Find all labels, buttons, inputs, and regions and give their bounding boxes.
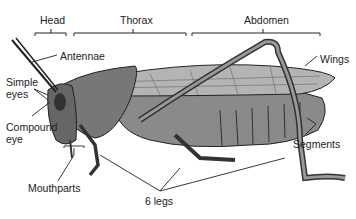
segments-label: Segments xyxy=(293,138,340,150)
simple-eyes-label-line1: Simple xyxy=(6,76,38,88)
thorax-label: Thorax xyxy=(120,14,153,26)
compound-eye-label-line1: Compound xyxy=(6,121,57,133)
wings-label: Wings xyxy=(320,53,349,65)
mouthparts-label: Mouthparts xyxy=(28,182,81,194)
thorax-bracket xyxy=(74,29,186,36)
head-label: Head xyxy=(40,14,65,26)
antennae-label: Antennae xyxy=(60,50,105,62)
insect-anatomy-diagram: Head Thorax Abdomen Antennae Simple eyes… xyxy=(0,0,356,219)
compound-eye-label-line2: eye xyxy=(6,133,23,145)
region-brackets xyxy=(35,29,320,36)
legs-label: 6 legs xyxy=(145,195,173,207)
abdomen-label: Abdomen xyxy=(244,14,289,26)
abdomen-bracket xyxy=(192,29,320,36)
simple-eyes-label-line2: eyes xyxy=(6,88,28,100)
head-bracket xyxy=(35,29,66,36)
